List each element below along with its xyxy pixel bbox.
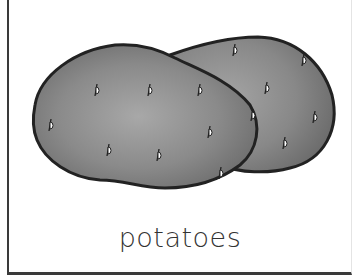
card-label: potatoes: [0, 220, 360, 256]
